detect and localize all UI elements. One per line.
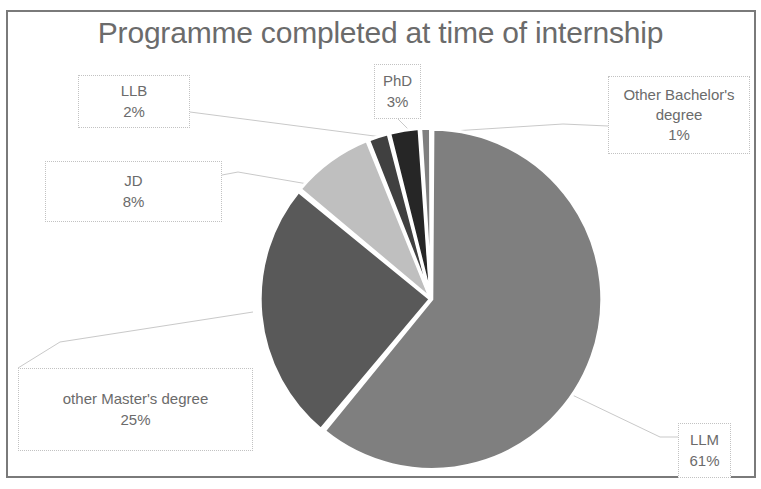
callout-jd[interactable]: JD 8% — [45, 161, 222, 222]
pie-slices — [260, 128, 602, 469]
pie-chart-image: Programme completed at time of internshi… — [0, 0, 761, 489]
callout-phd-percent: 3% — [387, 92, 409, 112]
callout-llb-label: LLB — [121, 81, 148, 101]
callout-llb-percent: 2% — [123, 102, 145, 122]
callout-phd[interactable]: PhD 3% — [374, 64, 421, 119]
callout-llm[interactable]: LLM 61% — [678, 423, 731, 478]
callout-llm-label: LLM — [690, 430, 719, 450]
callout-other-masters-label: other Master's degree — [63, 389, 208, 409]
callout-jd-label: JD — [124, 171, 142, 191]
callout-llb[interactable]: LLB 2% — [78, 75, 190, 128]
callout-other-masters-percent: 25% — [120, 410, 150, 430]
callout-other-bachelors[interactable]: Other Bachelor's degree 1% — [608, 76, 750, 154]
callout-other-bachelors-label-line1: Other Bachelor's — [623, 85, 734, 105]
callout-other-bachelors-label-line2: degree — [656, 105, 703, 125]
callout-jd-percent: 8% — [123, 192, 145, 212]
callout-llm-percent: 61% — [689, 451, 719, 471]
callout-other-masters[interactable]: other Master's degree 25% — [18, 368, 253, 451]
callout-other-bachelors-percent: 1% — [668, 125, 690, 145]
callout-phd-label: PhD — [383, 71, 412, 91]
